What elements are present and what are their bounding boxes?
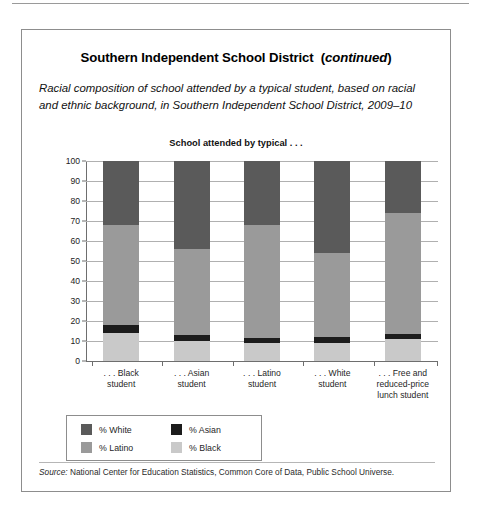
bar-column: [103, 161, 139, 361]
x-axis-label-line: . . . Black: [86, 368, 156, 379]
legend-item[interactable]: % Black: [171, 442, 221, 453]
y-tick-label: 10: [70, 336, 80, 346]
legend-label: % Latino: [99, 443, 133, 453]
x-axis-label-line: student: [297, 379, 367, 390]
page-title: Southern Independent School District (co…: [22, 50, 450, 65]
x-tick-mark: [92, 361, 93, 366]
x-tick-mark: [437, 361, 438, 366]
x-tick-mark: [303, 361, 304, 366]
bar-segment: [244, 225, 280, 338]
x-axis-label-line: student: [156, 379, 226, 390]
bar-column: [244, 161, 280, 361]
legend-item[interactable]: % White: [81, 424, 132, 435]
bar-segment: [174, 335, 210, 341]
bar-segment: [103, 333, 139, 361]
page-title-continued-label: continued: [325, 50, 387, 65]
legend-label: % Asian: [189, 425, 221, 435]
page-root: Southern Independent School District (co…: [0, 0, 481, 520]
top-divider: [12, 3, 469, 4]
bar-segment: [314, 253, 350, 337]
bar-segment: [314, 343, 350, 361]
bar-segment: [385, 334, 421, 339]
bar-column: [385, 161, 421, 361]
bar-segment: [103, 325, 139, 333]
y-tick-label: 90: [70, 176, 80, 186]
chart-area: 0102030405060708090100 . . . Blackstuden…: [58, 161, 442, 373]
x-axis-label-line: . . . Free and: [368, 368, 438, 379]
bar-segment: [244, 161, 280, 225]
legend-label: % White: [99, 425, 132, 435]
plot-region: 0102030405060708090100: [86, 161, 438, 361]
bars-layer: [86, 161, 438, 361]
y-tick-label: 70: [70, 216, 80, 226]
source-text: National Center for Education Statistics…: [68, 467, 395, 477]
bar-segment: [385, 339, 421, 361]
bar-segment: [103, 225, 139, 325]
legend-swatch: [171, 442, 182, 453]
y-tick-label: 0: [75, 356, 80, 366]
y-tick-label: 60: [70, 236, 80, 246]
x-axis-label: . . . Free andreduced-pricelunch student: [368, 368, 438, 401]
source-label: Source:: [39, 467, 68, 477]
page-title-main: Southern Independent School District: [81, 50, 314, 65]
x-tick-mark: [162, 361, 163, 366]
x-axis-label-line: student: [86, 379, 156, 390]
bar-column: [174, 161, 210, 361]
x-tick-mark: [374, 361, 375, 366]
source-divider: [39, 462, 435, 463]
x-tick-mark: [233, 361, 234, 366]
x-axis-label-line: . . . Asian: [156, 368, 226, 379]
legend-label: % Black: [189, 443, 221, 453]
legend-swatch: [81, 424, 92, 435]
y-tick-label: 30: [70, 296, 80, 306]
bar-segment: [103, 161, 139, 225]
x-axis-label-line: lunch student: [368, 390, 438, 401]
legend-item[interactable]: % Asian: [171, 424, 221, 435]
chart-title: School attended by typical . . .: [22, 138, 450, 148]
y-tick-label: 50: [70, 256, 80, 266]
bar-segment: [314, 161, 350, 253]
bar-segment: [385, 161, 421, 213]
figure-panel: Southern Independent School District (co…: [21, 29, 451, 492]
bar-segment: [314, 337, 350, 343]
y-tick-label: 100: [66, 156, 80, 166]
gridline: [86, 361, 438, 362]
bar-segment: [174, 341, 210, 361]
y-tick-label: 20: [70, 316, 80, 326]
bar-segment: [174, 161, 210, 249]
x-axis-label-line: student: [227, 379, 297, 390]
bar-segment: [174, 249, 210, 335]
bar-segment: [244, 343, 280, 361]
x-axis-label: . . . Latinostudent: [227, 368, 297, 390]
chart-legend: % White% Asian% Latino% Black: [66, 415, 262, 461]
x-axis-label-line: . . . White: [297, 368, 367, 379]
x-axis-label-line: reduced-price: [368, 379, 438, 390]
y-tick-label: 40: [70, 276, 80, 286]
x-axis-label: . . . Blackstudent: [86, 368, 156, 390]
x-axis-label-line: . . . Latino: [227, 368, 297, 379]
y-tick-label: 80: [70, 196, 80, 206]
x-axis-label: . . . Whitestudent: [297, 368, 367, 390]
source-note: Source: National Center for Education St…: [39, 467, 439, 477]
figure-subtitle: Racial composition of school attended by…: [39, 80, 437, 114]
bar-column: [314, 161, 350, 361]
legend-swatch: [81, 442, 92, 453]
x-axis-label: . . . Asianstudent: [156, 368, 226, 390]
legend-item[interactable]: % Latino: [81, 442, 133, 453]
bar-segment: [244, 338, 280, 343]
legend-swatch: [171, 424, 182, 435]
bar-segment: [385, 213, 421, 334]
